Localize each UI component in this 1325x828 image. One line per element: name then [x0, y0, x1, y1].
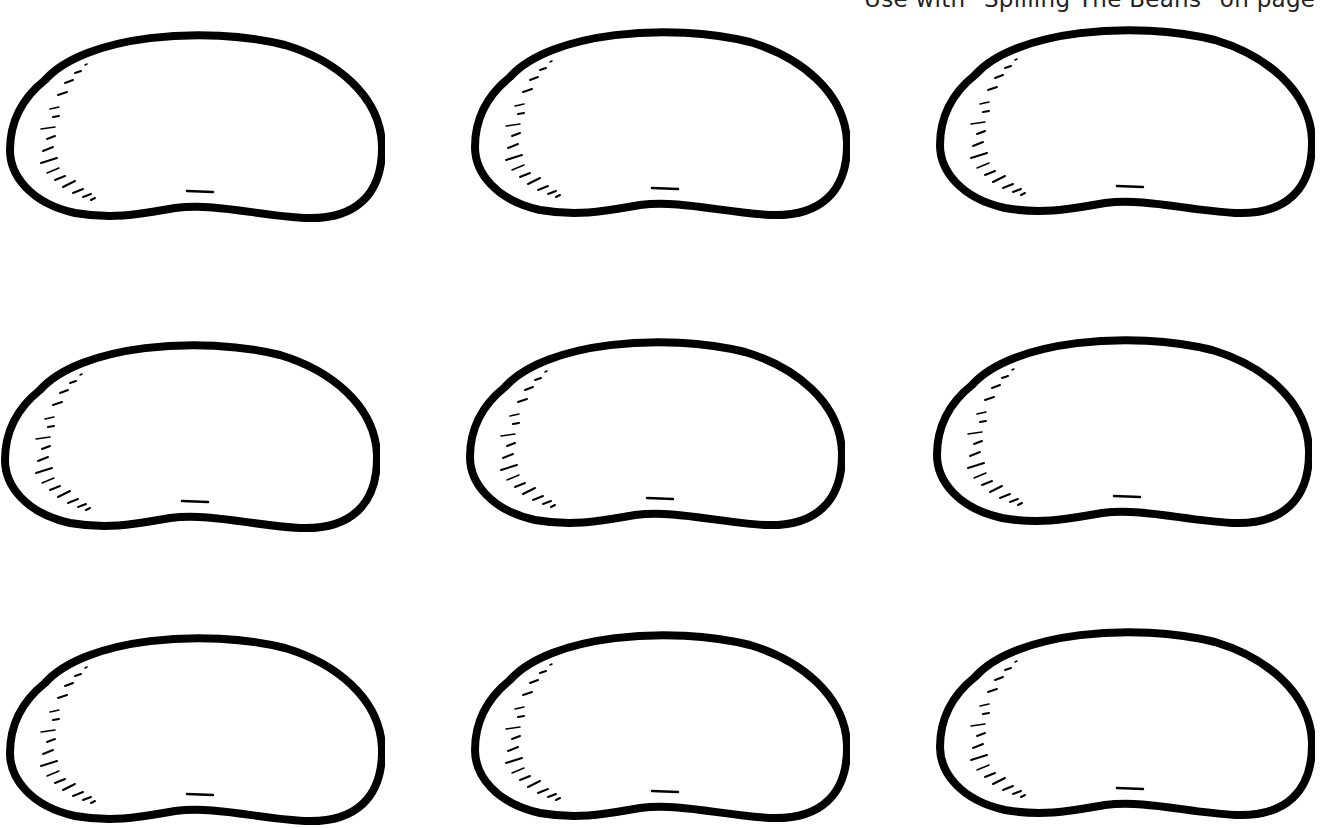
bean-icon [465, 332, 845, 532]
bean-icon [5, 628, 385, 828]
bean-icon [932, 330, 1312, 530]
worksheet-caption: Use with "Spilling The Beans" on page [864, 0, 1315, 12]
bean-outline-r3-c3 [935, 622, 1315, 822]
bean-outline-r2-c2 [465, 332, 845, 532]
bean-icon [935, 20, 1315, 220]
bean-outline-r2-c3 [932, 330, 1312, 530]
bean-icon [0, 335, 380, 535]
bean-icon [935, 622, 1315, 822]
bean-outline-r1-c2 [470, 22, 850, 222]
bean-outline-r2-c1 [0, 335, 380, 535]
bean-outline-r1-c1 [5, 25, 385, 225]
bean-icon [470, 625, 850, 825]
bean-icon [5, 25, 385, 225]
bean-icon [470, 22, 850, 222]
bean-outline-r3-c1 [5, 628, 385, 828]
bean-outline-r1-c3 [935, 20, 1315, 220]
bean-outline-r3-c2 [470, 625, 850, 825]
